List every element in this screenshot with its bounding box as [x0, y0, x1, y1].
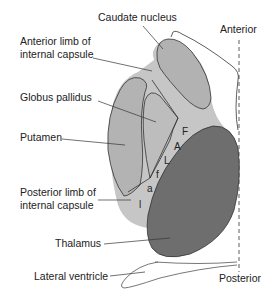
label-posterior-limb-2: internal capsule: [20, 199, 94, 211]
label-globus-pallidus: Globus pallidus: [20, 91, 92, 103]
label-anterior-limb-1: Anterior limb of: [20, 35, 91, 47]
capsule-letter-L: L: [164, 155, 170, 166]
diagram-svg: Caudate nucleus Anterior limb of interna…: [0, 0, 272, 305]
label-posterior: Posterior: [219, 272, 262, 284]
label-anterior-limb-2: internal capsule: [20, 48, 94, 60]
label-putamen: Putamen: [20, 131, 62, 143]
label-lateral-ventricle: Lateral ventricle: [34, 270, 108, 282]
capsule-letter-f: f: [156, 169, 159, 180]
leader-anterior-limb: [93, 58, 152, 71]
brain-diagram: Caudate nucleus Anterior limb of interna…: [0, 0, 272, 305]
capsule-letter-a: a: [147, 183, 153, 194]
capsule-letter-F: F: [182, 126, 188, 137]
capsule-letter-A: A: [174, 141, 181, 152]
capsule-letter-l: l: [139, 199, 141, 210]
label-posterior-limb-1: Posterior limb of: [20, 186, 96, 198]
leader-ventricle: [110, 272, 145, 276]
label-caudate-nucleus: Caudate nucleus: [98, 11, 177, 23]
leader-caudate: [143, 26, 163, 49]
label-anterior: Anterior: [220, 23, 257, 35]
label-thalamus: Thalamus: [55, 237, 101, 249]
